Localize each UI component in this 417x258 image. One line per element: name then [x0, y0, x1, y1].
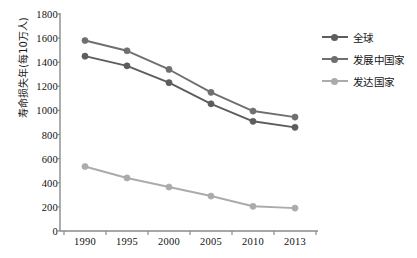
- x-axis-tick-label: 2005: [200, 236, 222, 247]
- legend-label: 发达国家: [353, 74, 394, 89]
- legend-marker-icon: [322, 76, 348, 86]
- legend-label: 发展中国家: [353, 52, 405, 67]
- data-point: [82, 163, 88, 169]
- data-point: [292, 205, 298, 211]
- series-2: [82, 163, 298, 211]
- legend-marker-icon: [322, 54, 348, 64]
- data-point: [166, 184, 172, 190]
- chart-container: 寿命损失年(每10万人) 020040060080010001200140016…: [0, 0, 417, 258]
- x-axis-tick-label: 1990: [74, 236, 96, 247]
- data-point: [292, 114, 298, 120]
- x-axis-tick-label: 2000: [158, 236, 180, 247]
- data-point: [250, 118, 256, 124]
- data-point: [208, 101, 214, 107]
- data-point: [208, 193, 214, 199]
- x-axis-tick-label: 1995: [116, 236, 138, 247]
- x-axis-tick-label: 2013: [284, 236, 306, 247]
- series-line: [85, 41, 295, 118]
- x-axis-tick-label: 2010: [242, 236, 264, 247]
- data-point: [124, 48, 130, 54]
- series-line: [85, 167, 295, 209]
- legend-marker-icon: [322, 32, 348, 42]
- data-point: [124, 63, 130, 69]
- series-line: [85, 56, 295, 127]
- legend-item-0[interactable]: 全球: [322, 26, 417, 48]
- legend-label: 全球: [353, 30, 374, 45]
- data-point: [82, 53, 88, 59]
- legend-item-2[interactable]: 发达国家: [322, 70, 417, 92]
- chart-legend: 全球发展中国家发达国家: [322, 26, 417, 92]
- series-1: [82, 37, 298, 120]
- data-point: [166, 66, 172, 72]
- data-point: [292, 124, 298, 130]
- data-point: [208, 89, 214, 95]
- data-point: [124, 175, 130, 181]
- data-point: [82, 37, 88, 43]
- series-0: [82, 53, 298, 130]
- data-point: [166, 80, 172, 86]
- data-point: [250, 108, 256, 114]
- legend-item-1[interactable]: 发展中国家: [322, 48, 417, 70]
- data-point: [250, 203, 256, 209]
